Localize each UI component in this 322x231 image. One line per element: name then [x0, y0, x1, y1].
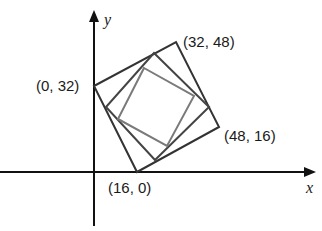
- middle-square: [106, 53, 209, 160]
- x-axis-arrow-icon: [304, 167, 316, 177]
- point-label-0-32: (0, 32): [36, 78, 79, 93]
- coordinate-diagram: [0, 0, 322, 231]
- point-label-32-48: (32, 48): [183, 34, 235, 49]
- x-axis-label: x: [306, 180, 313, 196]
- outer-square: [94, 42, 219, 172]
- point-label-48-16: (48, 16): [224, 128, 276, 143]
- y-axis-arrow-icon: [89, 10, 99, 22]
- y-axis-label: y: [104, 12, 111, 28]
- point-label-16-0: (16, 0): [108, 180, 151, 195]
